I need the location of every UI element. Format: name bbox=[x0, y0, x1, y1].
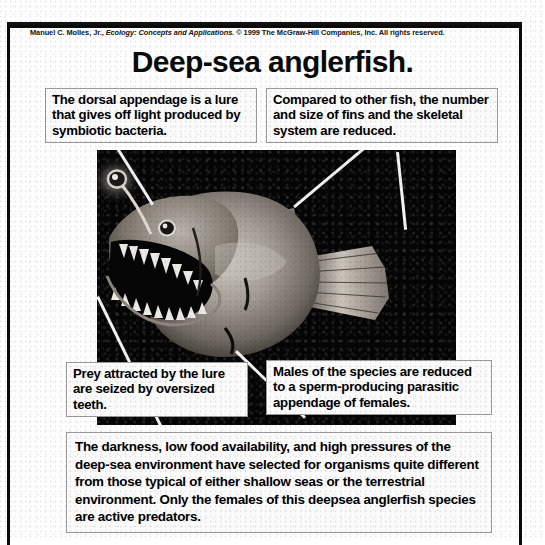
callout-summary: The darkness, low food availability, and… bbox=[66, 432, 492, 533]
summary-text: The darkness, low food availability, and… bbox=[75, 438, 485, 526]
credit-author: Manuel C. Molles, Jr., bbox=[30, 28, 106, 37]
copyright-credit-line: Manuel C. Molles, Jr., Ecology: Concepts… bbox=[30, 28, 500, 38]
page-title: Deep-sea anglerfish. bbox=[0, 45, 545, 79]
callout-text: Males of the species are reduced to a sp… bbox=[273, 364, 486, 410]
credit-book-title: Ecology: Concepts and Applications. bbox=[106, 28, 235, 37]
callout-parasitic-males: Males of the species are reduced to a sp… bbox=[266, 360, 492, 415]
callout-dorsal-appendage: The dorsal appendage is a lure that give… bbox=[45, 88, 257, 143]
callout-text: The dorsal appendage is a lure that give… bbox=[52, 92, 251, 138]
callout-text: Prey attracted by the lure are seized by… bbox=[73, 366, 242, 412]
callout-fins-and-skeleton: Compared to other fish, the number and s… bbox=[266, 88, 498, 143]
callout-prey-capture: Prey attracted by the lure are seized by… bbox=[66, 362, 248, 417]
callout-text: Compared to other fish, the number and s… bbox=[273, 92, 492, 138]
credit-rights: © 1999 The McGraw-Hill Companies, Inc. A… bbox=[234, 28, 444, 37]
